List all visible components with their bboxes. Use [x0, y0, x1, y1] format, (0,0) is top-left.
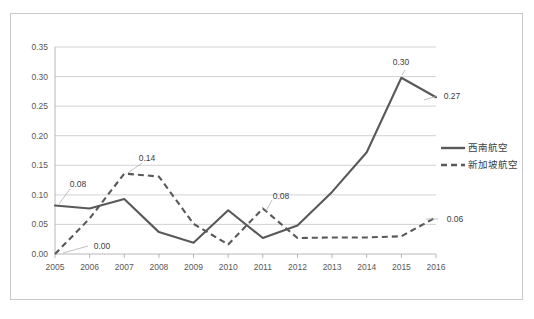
x-tick-label-2006: 2006 — [80, 262, 99, 272]
data-label-0.08-2011: 0.08 — [273, 191, 290, 201]
x-tick-label-2010: 2010 — [219, 262, 238, 272]
leader-line-0.30-2015 — [402, 70, 405, 75]
y-axis-labels: 0.35 0.30 0.25 0.20 0.15 0.10 0.05 0.00 — [31, 42, 48, 259]
x-tick-label-2016: 2016 — [427, 262, 446, 272]
y-tick-label: 0.30 — [31, 72, 48, 82]
x-axis-tickmarks — [55, 254, 436, 258]
x-tick-label-2011: 2011 — [254, 262, 273, 272]
x-tick-label-2005: 2005 — [46, 262, 65, 272]
x-tick-label-2012: 2012 — [288, 262, 307, 272]
x-tick-label-2007: 2007 — [115, 262, 134, 272]
data-labels: 0.08 0.00 0.14 0.08 0.30 0.27 0.06 — [70, 57, 464, 251]
data-label-0.30-2015: 0.30 — [393, 57, 410, 67]
series-line-southwest-airlines — [55, 78, 436, 243]
y-tick-label: 0.35 — [31, 42, 48, 52]
leader-line-0.27-2016 — [424, 96, 437, 100]
data-label-0.08-2005: 0.08 — [70, 179, 87, 189]
legend-label-southwest-airlines: 西南航空 — [468, 142, 508, 153]
data-label-0.00-2005: 0.00 — [94, 241, 111, 251]
y-tick-label: 0.00 — [31, 249, 48, 259]
x-axis-labels: 2005 2006 2007 2008 2009 2010 2011 2012 … — [46, 262, 446, 272]
gridlines — [55, 47, 436, 224]
x-tick-label-2014: 2014 — [357, 262, 376, 272]
chart-legend: 西南航空 新加坡航空 — [441, 142, 518, 170]
leader-line-0.00-2005 — [63, 246, 88, 253]
series-line-singapore-airlines — [55, 174, 436, 254]
y-tick-label: 0.05 — [31, 219, 48, 229]
data-label-0.27-2016: 0.27 — [444, 91, 461, 101]
x-tick-label-2013: 2013 — [323, 262, 342, 272]
y-tick-label: 0.15 — [31, 160, 48, 170]
y-tick-label: 0.20 — [31, 131, 48, 141]
leader-line-0.08-2005 — [59, 189, 70, 204]
y-tick-label: 0.10 — [31, 190, 48, 200]
x-tick-label-2015: 2015 — [392, 262, 411, 272]
x-tick-label-2008: 2008 — [149, 262, 168, 272]
leader-line-0.14-2007 — [128, 163, 142, 173]
data-label-0.06-2016: 0.06 — [447, 214, 464, 224]
y-tick-label: 0.25 — [31, 101, 48, 111]
data-label-0.14-2007: 0.14 — [139, 153, 156, 163]
legend-label-singapore-airlines: 新加坡航空 — [468, 159, 518, 170]
line-chart: 0.35 0.30 0.25 0.20 0.15 0.10 0.05 0.00 … — [0, 0, 534, 319]
x-tick-label-2009: 2009 — [184, 262, 203, 272]
leader-line-0.08-2011 — [266, 200, 272, 211]
